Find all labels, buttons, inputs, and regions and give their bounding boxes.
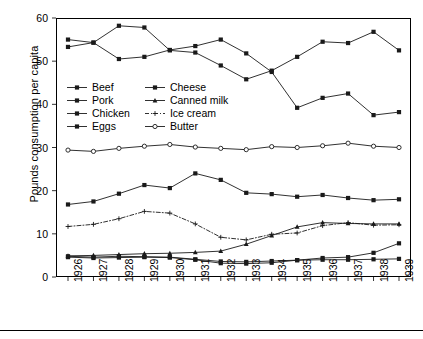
legend-item-canned-milk[interactable]: Canned milk xyxy=(144,95,228,106)
legend-item-pork[interactable]: Pork xyxy=(66,95,130,106)
legend-marker-cheese-icon xyxy=(144,83,166,92)
series-pork xyxy=(66,24,401,82)
legend-marker-butter-icon xyxy=(144,122,166,131)
legend-marker-chicken-icon xyxy=(66,109,88,118)
series-ice-cream xyxy=(66,209,402,242)
series-lines-layer xyxy=(0,0,423,339)
legend-item-chicken[interactable]: Chicken xyxy=(66,108,130,119)
legend-label: Cheese xyxy=(170,82,206,93)
legend-label: Canned milk xyxy=(170,95,228,106)
legend-label: Ice cream xyxy=(170,108,216,119)
legend-item-cheese[interactable]: Cheese xyxy=(144,82,228,93)
legend-label: Chicken xyxy=(92,108,130,119)
chart-legend: BeefCheesePorkCanned milkChickenIce crea… xyxy=(66,82,216,132)
legend-marker-canned-milk-icon xyxy=(144,96,166,105)
legend-label: Butter xyxy=(170,121,198,132)
legend-marker-ice-cream-icon xyxy=(144,109,166,118)
legend-item-ice-cream[interactable]: Ice cream xyxy=(144,108,228,119)
legend-marker-pork-icon xyxy=(66,96,88,105)
legend-marker-beef-icon xyxy=(66,83,88,92)
legend-label: Pork xyxy=(92,95,114,106)
legend-item-butter[interactable]: Butter xyxy=(144,121,228,132)
series-butter xyxy=(66,141,401,153)
series-chicken xyxy=(66,171,401,206)
series-cheese xyxy=(66,254,401,264)
legend-label: Beef xyxy=(92,82,114,93)
legend-item-eggs[interactable]: Eggs xyxy=(66,121,130,132)
bottom-divider xyxy=(0,330,423,331)
legend-label: Eggs xyxy=(92,121,116,132)
line-chart: Pounds consumption per capita 0102030405… xyxy=(0,0,423,339)
legend-item-beef[interactable]: Beef xyxy=(66,82,130,93)
legend-marker-eggs-icon xyxy=(66,122,88,131)
